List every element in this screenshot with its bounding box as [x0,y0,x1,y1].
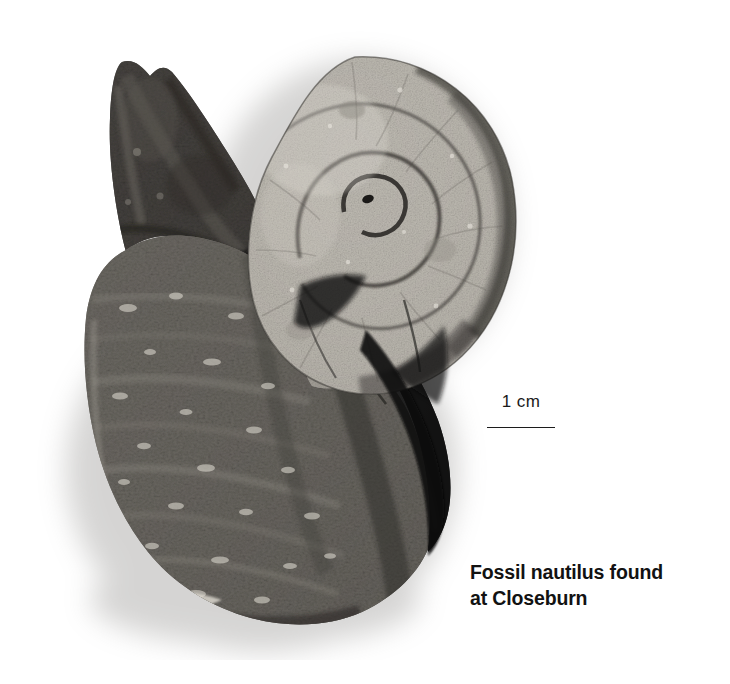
scale-bar-rule [487,427,555,428]
scale-bar: 1 cm [486,392,556,434]
scale-bar-label: 1 cm [486,392,556,412]
caption-line-2: at Closeburn [470,586,720,612]
image-canvas: 1 cm Fossil nautilus found at Closeburn [0,0,730,684]
figure-caption: Fossil nautilus found at Closeburn [470,560,720,612]
caption-line-1: Fossil nautilus found [470,560,720,586]
